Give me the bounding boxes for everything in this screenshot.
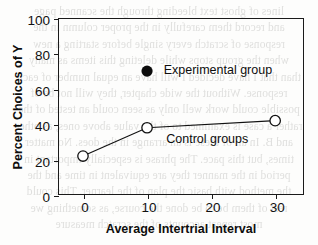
y-axis-tick-label: 40 xyxy=(35,119,50,134)
series-annotation-label: Experimental group xyxy=(164,63,272,77)
y-axis-tick-label: 20 xyxy=(35,154,50,169)
data-point-marker xyxy=(142,123,152,133)
x-axis-title: Average Intertrial Interval xyxy=(58,222,304,236)
x-axis-tick-label: 0 xyxy=(81,200,89,215)
data-point-marker xyxy=(78,151,88,161)
y-axis-tick-label: 0 xyxy=(42,190,50,205)
x-axis-tick-label: 20 xyxy=(206,200,221,215)
x-axis-tick-label: 10 xyxy=(142,200,157,215)
y-axis-tick-label: 60 xyxy=(35,83,50,98)
data-point-marker xyxy=(270,115,280,125)
chart-data-layer xyxy=(58,18,304,195)
x-axis-tick-label: 30 xyxy=(270,200,285,215)
series-annotation-label: Control groups xyxy=(166,132,248,146)
y-axis-tick-label: 100 xyxy=(27,13,50,28)
y-axis-tick: 0 xyxy=(54,196,59,197)
y-axis-title-wrap: Percent Choices of Y xyxy=(14,18,28,195)
figure-page: lines of ghost text bleeding through the… xyxy=(0,0,318,245)
y-axis-tick-label: 80 xyxy=(35,48,50,63)
data-point-marker xyxy=(141,66,152,77)
y-axis-title: Percent Choices of Y xyxy=(11,44,25,169)
